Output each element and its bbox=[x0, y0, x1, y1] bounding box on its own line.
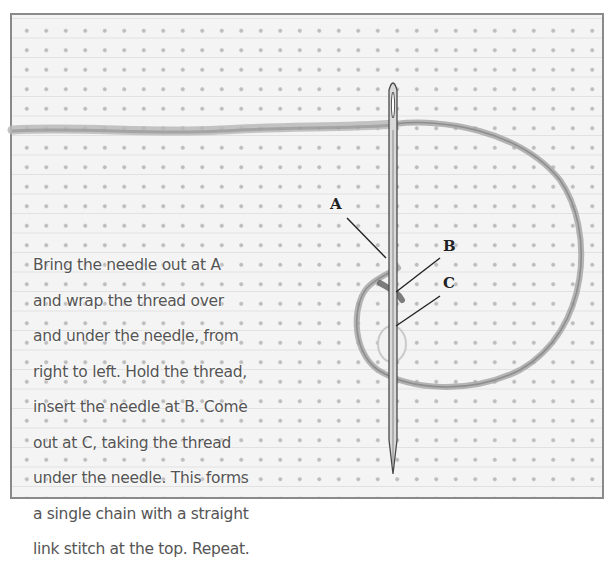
instruction-line: and wrap the thread over bbox=[33, 284, 303, 320]
needle bbox=[389, 83, 397, 474]
instruction-text: Bring the needle out at A and wrap the t… bbox=[33, 248, 303, 561]
instruction-line: under the needle. This forms bbox=[33, 461, 303, 497]
instruction-line: link stitch at the top. Repeat. bbox=[33, 532, 303, 561]
instruction-line: and under the needle, from bbox=[33, 319, 303, 355]
needle-eye bbox=[391, 92, 394, 118]
label-a: A bbox=[330, 195, 342, 213]
leader-line-b bbox=[396, 258, 440, 292]
instruction-line: a single chain with a straight bbox=[33, 497, 303, 533]
instruction-line: out at C, taking the thread bbox=[33, 426, 303, 462]
label-b: B bbox=[443, 237, 456, 255]
instruction-line: insert the needle at B. Come bbox=[33, 390, 303, 426]
instruction-line: Bring the needle out at A bbox=[33, 248, 303, 284]
leader-line-a bbox=[347, 218, 386, 258]
label-c: C bbox=[443, 274, 455, 292]
instruction-line: right to left. Hold the thread, bbox=[33, 355, 303, 391]
